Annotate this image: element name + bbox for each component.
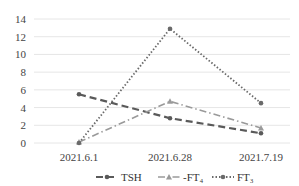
circle-marker-icon [221,175,226,180]
legend-label: FT₃ [237,171,254,183]
data-series [76,26,264,145]
series-ft4 [76,98,264,144]
triangle-marker-icon [167,98,173,104]
y-tick-label: 6 [21,84,27,96]
circle-marker-icon [168,116,173,121]
circle-marker-icon [105,175,110,180]
y-tick-label: 0 [21,137,27,149]
circle-marker-icon [259,101,264,106]
x-tick-label: 2021.6.28 [148,151,193,163]
legend-item-ft4: -FT₄ [158,171,204,183]
legend-label: -FT₄ [183,171,204,183]
circle-marker-icon [77,141,82,146]
y-tick-label: 8 [21,66,27,78]
x-axis-ticks: 2021.6.12021.6.282021.7.19 [60,151,284,163]
y-tick-label: 4 [21,102,27,114]
circle-marker-icon [259,131,264,136]
series-ft3 [77,26,264,145]
triangle-marker-icon [166,174,172,180]
x-tick-label: 2021.7.19 [239,151,284,163]
circle-marker-icon [168,26,173,31]
legend: TSH-FT₄FT₃ [96,171,254,183]
series-line [79,29,261,143]
y-axis-ticks: 02468101214 [15,13,27,149]
line-chart: 02468101214 2021.6.12021.6.282021.7.19 T… [0,0,299,186]
y-tick-label: 10 [15,48,27,60]
y-tick-label: 14 [15,13,27,25]
circle-marker-icon [77,92,82,97]
x-tick-label: 2021.6.1 [60,151,99,163]
legend-item-tsh: TSH [96,171,142,183]
legend-label: TSH [121,171,142,183]
y-tick-label: 12 [15,31,26,43]
y-tick-label: 2 [21,119,27,131]
legend-item-ft3: FT₃ [212,171,254,183]
